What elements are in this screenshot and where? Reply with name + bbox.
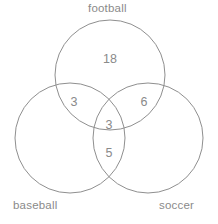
set-label-soccer: soccer — [159, 199, 194, 211]
region-value-baseball-soccer: 5 — [106, 146, 113, 160]
set-label-football: football — [88, 2, 127, 14]
set-label-baseball: baseball — [13, 199, 57, 211]
region-value-football-baseball: 3 — [71, 95, 78, 109]
venn-diagram: football baseball soccer 18 3 6 3 5 — [0, 0, 218, 224]
circle-football — [55, 20, 165, 130]
region-value-all-three: 3 — [106, 118, 113, 132]
venn-circles-group — [0, 0, 218, 224]
region-value-football-only: 18 — [103, 52, 117, 66]
region-value-football-soccer: 6 — [141, 95, 148, 109]
